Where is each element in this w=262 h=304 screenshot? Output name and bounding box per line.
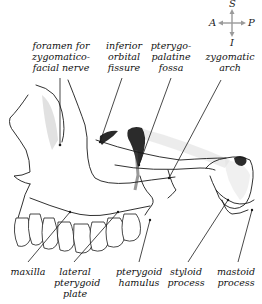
- compass-inferior-label: I: [230, 38, 234, 48]
- anatomy-figure: S A P I foramen for zygomatico- facial n…: [0, 0, 262, 304]
- label-zygomatic-arch: zygomatic arch: [200, 51, 260, 73]
- compass-posterior-label: P: [248, 18, 255, 28]
- label-maxilla: maxilla: [6, 266, 50, 277]
- label-pterygoid-hamulus: pterygoid hamulus: [116, 266, 162, 288]
- label-foramen-zygomaticofacial: foramen for zygomatico- facial nerve: [30, 40, 92, 73]
- shading: [42, 95, 250, 200]
- label-styloid-process: styloid process: [164, 266, 208, 288]
- teeth: [14, 214, 140, 253]
- orientation-compass-arrows: [218, 9, 246, 37]
- leader-dots: [59, 141, 254, 221]
- compass-superior-label: S: [229, 0, 236, 9]
- label-pterygopalatine-fossa: pterygo- palatine fossa: [150, 40, 192, 73]
- label-mastoid-process: mastoid process: [212, 266, 260, 288]
- label-lateral-pterygoid-plate: lateral pterygoid plate: [54, 266, 96, 299]
- label-inferior-orbital-fissure: inferior orbital fissure: [106, 40, 142, 73]
- compass-anterior-label: A: [209, 18, 216, 28]
